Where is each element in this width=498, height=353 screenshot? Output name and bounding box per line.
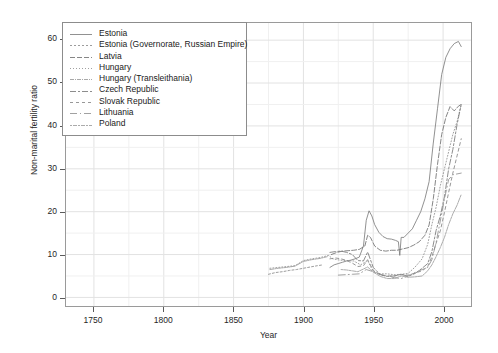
x-tick-label: 2000 [424, 315, 464, 325]
legend-line-swatch [70, 90, 92, 91]
legend-line-swatch [70, 33, 92, 34]
legend-item-estonia-governorate-russian-empire[interactable]: Estonia (Governorate, Russian Empire) [67, 39, 242, 50]
x-tick-label: 1800 [143, 315, 183, 325]
legend-item-label: Czech Republic [99, 84, 159, 95]
x-tick-mark [93, 307, 94, 312]
y-tick-mark [60, 212, 65, 213]
legend-item-hungary-transleithania[interactable]: Hungary (Transleithania) [67, 73, 242, 84]
legend-item-label: Hungary [99, 62, 131, 73]
x-tick-mark [233, 307, 234, 312]
legend-item-label: Hungary (Transleithania) [99, 73, 192, 84]
y-tick-mark [60, 298, 65, 299]
y-tick-mark [60, 169, 65, 170]
y-axis-title: Non-marital fertility ratio [29, 30, 39, 230]
legend-item-latvia[interactable]: Latvia [67, 51, 242, 62]
y-tick-label: 60 [31, 33, 57, 43]
legend-item-lithuania[interactable]: Lithuania [67, 107, 242, 118]
y-tick-label: 30 [31, 163, 57, 173]
x-axis-title: Year [65, 330, 472, 340]
x-tick-mark [374, 307, 375, 312]
x-tick-label: 1900 [284, 315, 324, 325]
legend: EstoniaEstonia (Governorate, Russian Emp… [62, 22, 247, 136]
legend-line-swatch [70, 67, 92, 68]
y-tick-label: 20 [31, 206, 57, 216]
x-tick-label: 1950 [354, 315, 394, 325]
legend-line-swatch [70, 78, 92, 79]
x-tick-mark [163, 307, 164, 312]
legend-item-poland[interactable]: Poland [67, 118, 242, 129]
y-tick-label: 0 [31, 292, 57, 302]
legend-item-label: Latvia [99, 51, 122, 62]
legend-line-swatch [70, 44, 92, 45]
x-tick-mark [304, 307, 305, 312]
y-tick-label: 50 [31, 76, 57, 86]
legend-line-swatch [70, 56, 92, 57]
x-tick-label: 1850 [213, 315, 253, 325]
legend-line-swatch [70, 101, 92, 102]
legend-item-estonia[interactable]: Estonia [67, 28, 242, 39]
x-tick-label: 1750 [73, 315, 113, 325]
legend-item-hungary[interactable]: Hungary [67, 62, 242, 73]
legend-item-label: Lithuania [99, 107, 134, 118]
legend-line-swatch [70, 112, 92, 113]
series-line-estonia-governorate-russian-empire [269, 265, 323, 274]
legend-item-label: Slovak Republic [99, 96, 160, 107]
legend-item-label: Estonia [99, 28, 127, 39]
y-tick-label: 40 [31, 120, 57, 130]
legend-item-label: Estonia (Governorate, Russian Empire) [99, 39, 247, 50]
chart-root: Non-marital fertility ratio 010203040506… [0, 0, 498, 353]
legend-item-slovak-republic[interactable]: Slovak Republic [67, 96, 242, 107]
legend-item-label: Poland [99, 118, 125, 129]
series-line-slovak-republic [330, 139, 461, 276]
legend-line-swatch [70, 124, 92, 125]
series-line-estonia [330, 41, 461, 267]
x-tick-mark [444, 307, 445, 312]
y-tick-label: 10 [31, 249, 57, 259]
legend-item-czech-republic[interactable]: Czech Republic [67, 84, 242, 95]
y-tick-mark [60, 255, 65, 256]
